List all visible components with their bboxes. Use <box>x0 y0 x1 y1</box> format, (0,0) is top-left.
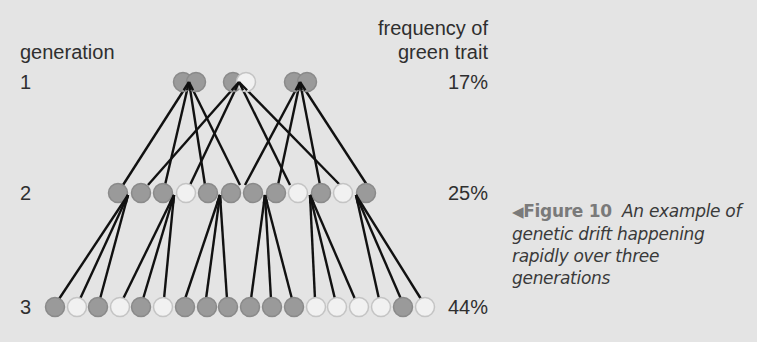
green-trait-individual-circle <box>68 298 87 317</box>
link-junction <box>220 195 221 203</box>
frequency-header-line1: frequency of <box>330 17 488 39</box>
other-trait-individual-circle <box>198 298 217 317</box>
green-trait-individual-circle <box>154 298 173 317</box>
link-gen2-to-gen3 <box>356 195 379 299</box>
caption-arrow-icon: ◀ <box>512 203 523 221</box>
link-junction <box>173 195 174 203</box>
green-trait-individual-circle <box>372 298 391 317</box>
other-trait-individual-circle <box>132 298 151 317</box>
link-gen2-to-gen3 <box>206 195 220 299</box>
other-trait-individual-circle <box>89 298 108 317</box>
link-gen2-to-gen3 <box>59 195 128 299</box>
link-gen1-to-gen2 <box>165 82 189 185</box>
green-trait-individual-circle <box>177 184 196 203</box>
link-gen2-to-gen3 <box>356 195 401 299</box>
other-trait-individual-circle <box>199 184 218 203</box>
generation-2-frequency: 25% <box>400 182 488 204</box>
generation-3-frequency: 44% <box>400 296 488 318</box>
other-trait-individual-circle <box>176 298 195 317</box>
other-trait-individual-circle <box>244 184 263 203</box>
link-gen1-to-gen2 <box>123 82 189 185</box>
link-gen1-to-gen2 <box>278 82 300 185</box>
other-trait-individual-circle <box>46 298 65 317</box>
link-gen2-to-gen3 <box>220 195 227 299</box>
figure-caption: ◀Figure 10 An example of genetic drift h… <box>512 200 757 289</box>
other-trait-individual-circle <box>312 184 331 203</box>
link-gen2-to-gen3 <box>356 195 421 299</box>
other-trait-individual-circle <box>241 298 260 317</box>
link-gen2-to-gen3 <box>310 195 355 299</box>
link-gen2-to-gen3 <box>185 195 220 299</box>
other-trait-individual-circle <box>263 298 282 317</box>
generation-2-label: 2 <box>20 182 31 204</box>
link-gen2-to-gen3 <box>251 195 265 299</box>
link-gen1-to-gen2 <box>148 82 239 185</box>
other-trait-individual-circle <box>132 184 151 203</box>
generation-1-label: 1 <box>20 71 31 93</box>
green-trait-individual-circle <box>328 298 347 317</box>
green-trait-individual-circle <box>289 184 308 203</box>
figure-label: Figure 10 <box>523 201 612 221</box>
green-trait-individual-circle <box>350 298 369 317</box>
other-trait-individual-circle <box>285 298 304 317</box>
green-trait-individual-circle <box>334 184 353 203</box>
generation-3-label: 3 <box>20 296 31 318</box>
other-trait-individual-circle <box>222 184 241 203</box>
other-trait-individual-circle <box>219 298 238 317</box>
generation-header: generation <box>20 41 115 63</box>
other-trait-individual-circle <box>267 184 286 203</box>
green-trait-individual-circle <box>111 298 130 317</box>
other-trait-individual-circle <box>154 184 173 203</box>
frequency-header-line2: green trait <box>330 41 488 63</box>
green-trait-individual-circle <box>307 298 326 317</box>
generation-1-frequency: 17% <box>400 71 488 93</box>
